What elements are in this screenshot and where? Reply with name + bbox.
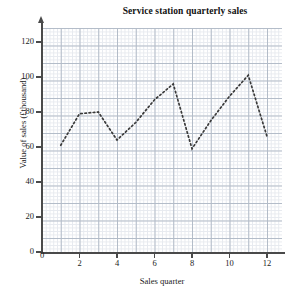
plot-area bbox=[42, 28, 282, 252]
x-tick-label: 8 bbox=[182, 258, 202, 268]
y-tick-mark bbox=[36, 76, 42, 77]
y-tick-label: 60 bbox=[0, 141, 34, 151]
y-tick-label: 40 bbox=[0, 176, 34, 186]
x-tick-label: 2 bbox=[70, 258, 90, 268]
y-tick-mark bbox=[36, 41, 42, 42]
x-tick-label: 0 bbox=[32, 250, 52, 260]
y-tick-label: 100 bbox=[0, 71, 34, 81]
y-axis-line bbox=[41, 22, 43, 254]
x-axis-title: Sales quarter bbox=[42, 276, 282, 286]
series-line bbox=[42, 28, 282, 252]
chart-figure: Service station quarterly sales 02040608… bbox=[0, 0, 294, 298]
y-tick-label: 20 bbox=[0, 211, 34, 221]
x-tick-label: 4 bbox=[107, 258, 127, 268]
y-tick-mark bbox=[36, 181, 42, 182]
y-tick-label: 0 bbox=[0, 246, 34, 256]
y-tick-mark bbox=[36, 146, 42, 147]
y-tick-mark bbox=[36, 216, 42, 217]
x-tick-label: 12 bbox=[257, 258, 277, 268]
y-axis-title: Value of sales (£thousand) bbox=[18, 48, 28, 198]
x-tick-label: 6 bbox=[145, 258, 165, 268]
chart-title: Service station quarterly sales bbox=[80, 6, 290, 16]
y-tick-label: 120 bbox=[0, 36, 34, 46]
x-axis-line bbox=[41, 252, 285, 254]
y-tick-label: 80 bbox=[0, 106, 34, 116]
y-tick-mark bbox=[36, 111, 42, 112]
x-tick-label: 10 bbox=[220, 258, 240, 268]
